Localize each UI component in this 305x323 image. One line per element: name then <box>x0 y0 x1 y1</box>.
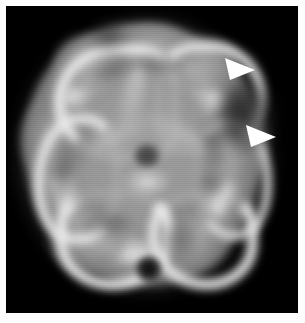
figure-panel: Transaxial brain perfusion scan <box>0 0 305 323</box>
sulcus-posterior-left <box>77 211 135 237</box>
sulcus-lateral-left <box>49 133 78 203</box>
low-uptake-foci <box>6 6 298 313</box>
sulcus-anterior-mid <box>133 51 176 78</box>
focus-central-defect <box>134 144 160 168</box>
focus-posterior-defect <box>136 256 162 282</box>
scan-image <box>6 6 298 313</box>
sulcus-inferior-right <box>200 170 226 196</box>
notch-superior-left <box>92 24 126 50</box>
region-right-lateral-hypoperfusion <box>218 82 272 152</box>
focus-bright-subcentral <box>124 168 170 196</box>
sulcus-anterior-left <box>88 52 140 86</box>
sulcus-posterior-right <box>157 216 202 265</box>
